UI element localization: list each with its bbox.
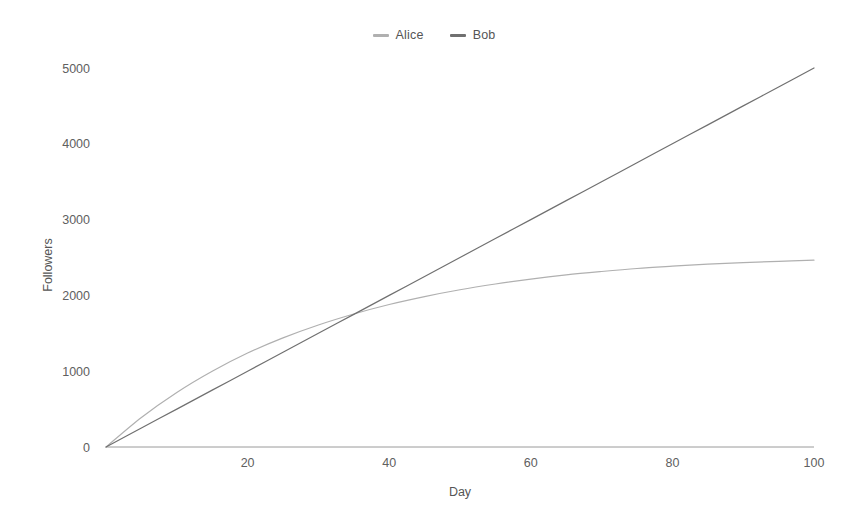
y-tick-label: 3000	[62, 213, 90, 227]
y-axis-tick-labels: 010002000300040005000	[62, 62, 90, 455]
x-axis-tick-labels: 20406080100	[241, 456, 825, 470]
x-tick-label: 20	[241, 456, 255, 470]
x-tick-label: 80	[665, 456, 679, 470]
x-tick-label: 40	[382, 456, 396, 470]
y-tick-label: 2000	[62, 289, 90, 303]
data-line-bob	[106, 68, 814, 447]
x-axis-title: Day	[449, 485, 472, 499]
y-tick-label: 5000	[62, 62, 90, 76]
chart-container: Alice Bob 010002000300040005000 20406080…	[0, 0, 868, 525]
x-tick-label: 100	[804, 456, 825, 470]
plot-area: 010002000300040005000 20406080100 Day Fo…	[0, 0, 868, 525]
y-tick-label: 4000	[62, 137, 90, 151]
y-axis-title: Followers	[41, 238, 55, 292]
x-tick-label: 60	[524, 456, 538, 470]
data-line-alice	[106, 260, 814, 447]
y-tick-label: 0	[83, 441, 90, 455]
y-tick-label: 1000	[62, 365, 90, 379]
